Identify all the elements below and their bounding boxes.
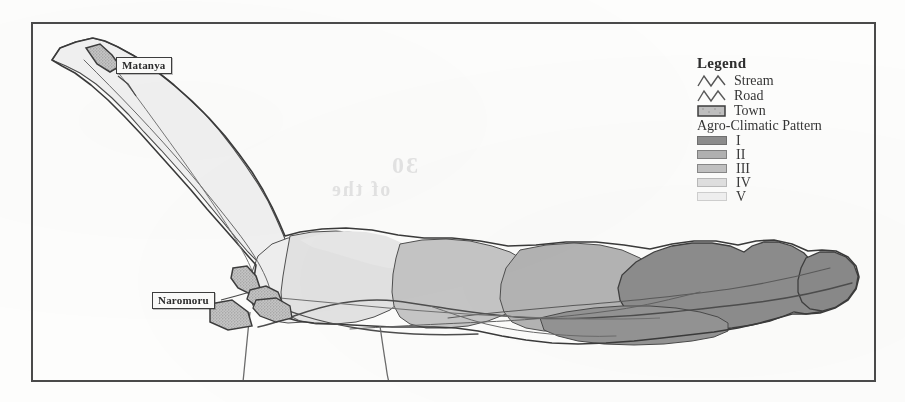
legend-class-V: V [697,189,869,203]
legend-class-label: III [731,162,750,175]
legend-label-road: Road [731,89,764,103]
zone-polygon-I-lower [540,306,728,345]
map-figure: 2003 figure 30 of the [0,0,905,402]
legend-item-road: Road [697,88,869,104]
legend-label-stream: Stream [731,74,774,88]
zigzag-line-icon [697,74,731,89]
town-polygon-naromoru-c [210,300,252,330]
filled-box-icon [697,104,731,119]
road-south-b [380,326,389,382]
legend-title: Legend [697,55,869,72]
legend-label-town: Town [731,104,766,118]
town-label-naromoru[interactable]: Naromoru [152,292,215,309]
class-swatch-icon [697,162,731,174]
class-swatch-icon [697,176,731,188]
legend-class-II: II [697,147,869,161]
legend-section-title: Agro-Climatic Pattern [697,118,869,133]
map-legend: Legend Stream Road [697,55,869,203]
zone-polygon-I-east-tip [798,252,858,311]
legend-item-stream: Stream [697,73,869,89]
zigzag-line-icon [697,89,731,104]
legend-class-IV: IV [697,175,869,189]
legend-class-label: IV [731,176,751,189]
class-swatch-icon [697,134,731,146]
legend-class-label: I [731,134,741,147]
legend-class-label: V [731,190,746,203]
legend-class-III: III [697,161,869,175]
leader-line-naromoru [221,292,250,300]
legend-class-label: II [731,148,745,161]
town-label-matanya[interactable]: Matanya [116,57,172,74]
class-swatch-icon [697,190,731,202]
class-swatch-icon [697,148,731,160]
legend-class-I: I [697,133,869,147]
zone-polygon-V [52,38,297,276]
legend-item-town: Town [697,103,869,119]
